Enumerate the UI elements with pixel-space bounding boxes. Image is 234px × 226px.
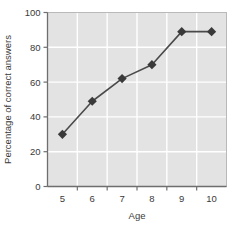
x-axis-tick-label: 9: [179, 193, 184, 204]
x-axis: 5678910: [60, 187, 217, 204]
x-axis-tick-label: 7: [119, 193, 124, 204]
line-chart: 0204060801005678910AgePercentage of corr…: [0, 0, 234, 226]
x-axis-tick-label: 8: [149, 193, 154, 204]
y-axis-tick-label: 100: [25, 7, 41, 18]
y-axis-title: Percentage of correct answers: [2, 35, 13, 164]
y-axis-tick-label: 80: [30, 42, 41, 53]
y-axis-tick-label: 20: [30, 146, 41, 157]
y-axis: 020406080100: [25, 7, 48, 192]
chart-container: 0204060801005678910AgePercentage of corr…: [0, 0, 234, 226]
x-axis-tick-label: 6: [90, 193, 95, 204]
x-axis-tick-label: 5: [60, 193, 65, 204]
y-axis-tick-label: 0: [35, 181, 40, 192]
y-axis-tick-label: 60: [30, 77, 41, 88]
x-axis-title: Age: [129, 210, 146, 221]
x-axis-tick-label: 10: [206, 193, 217, 204]
y-axis-tick-label: 40: [30, 111, 41, 122]
